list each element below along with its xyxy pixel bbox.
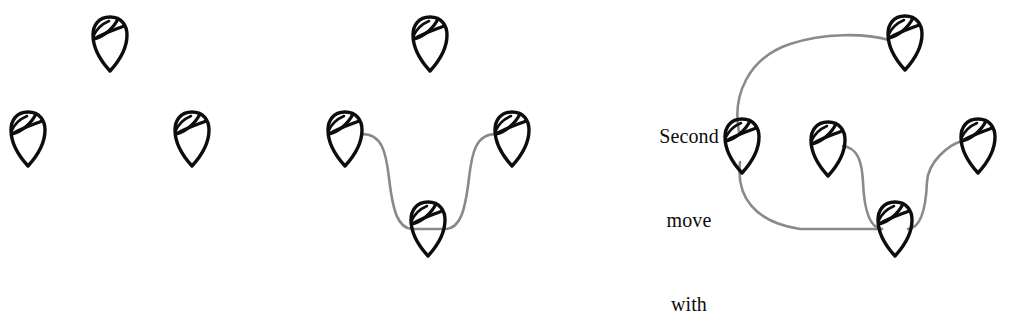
- edge-middle-to-bottom: [843, 146, 882, 229]
- sprout-node-start-top[interactable]: [93, 17, 127, 71]
- sprout-node-start-left[interactable]: [11, 112, 45, 166]
- edge-left-to-top: [737, 35, 889, 132]
- label-second-move-line-2: move: [646, 206, 732, 234]
- panel-start-sprouts: [11, 17, 209, 166]
- sprout-node-second-top[interactable]: [888, 16, 922, 70]
- sprout-node-start-right[interactable]: [175, 112, 209, 166]
- sprout-node-first-left[interactable]: [328, 112, 362, 166]
- edge-left-to-bottom: [739, 162, 882, 229]
- sprouts-figure: Start First move with new sprout Second …: [0, 0, 1030, 336]
- sprout-node-first-top[interactable]: [413, 17, 447, 71]
- label-second-move-line-1: Second: [646, 122, 732, 150]
- panel-second-move-sprouts: [725, 16, 995, 256]
- sprout-node-first-right[interactable]: [495, 112, 529, 166]
- sprout-node-second-right[interactable]: [961, 119, 995, 173]
- label-second-move-line-3: with: [646, 290, 732, 318]
- caption-first-move: First move with new sprout: [300, 279, 560, 336]
- caption-start: Start: [0, 279, 240, 336]
- sprout-node-second-middle[interactable]: [811, 122, 845, 176]
- panel-first-move-sprouts: [328, 17, 529, 256]
- edge-bottom-to-right: [908, 141, 962, 229]
- caption-second-move: 3 branches (bottom sprout cannot be used…: [742, 279, 1030, 336]
- label-second-move: Second move with new sprout: [646, 66, 732, 336]
- panel-second-move-edges: [737, 35, 962, 229]
